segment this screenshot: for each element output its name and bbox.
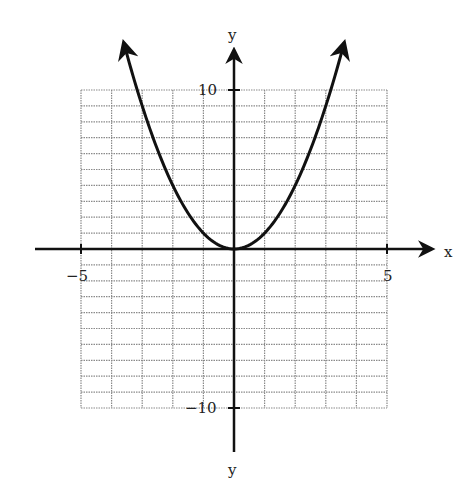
y-tick-top: 10 (198, 81, 217, 99)
x-tick-right: 5 (383, 267, 393, 285)
x-tick-left: −5 (66, 267, 88, 285)
parabola-chart: x y y −5 5 10 −10 (0, 0, 473, 480)
y-axis-label-bottom: y (227, 461, 237, 479)
x-axis-label: x (444, 243, 453, 261)
y-axis-label-top: y (227, 26, 237, 44)
y-tick-bottom: −10 (185, 399, 217, 417)
